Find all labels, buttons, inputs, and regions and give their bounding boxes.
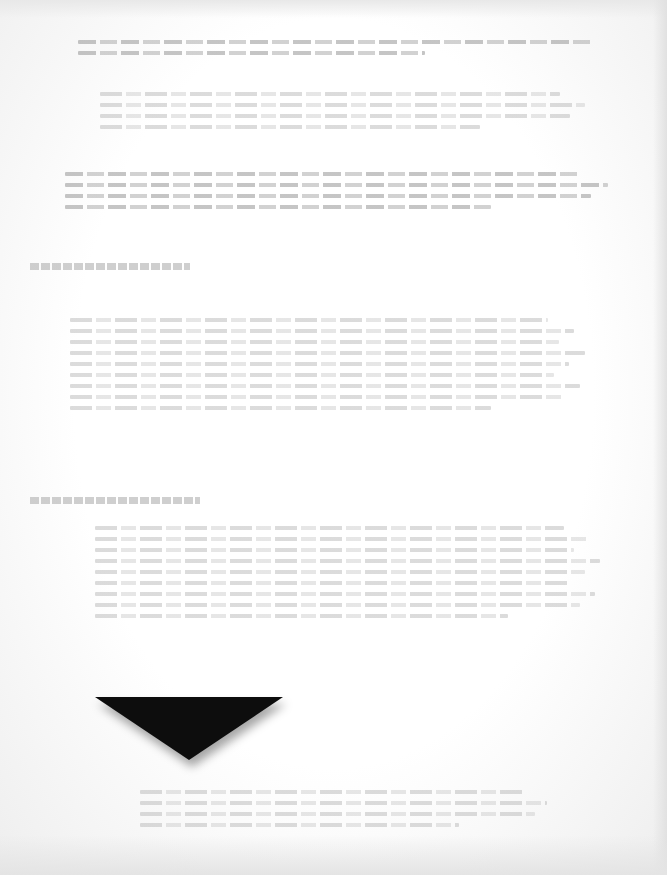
text-line	[95, 548, 574, 552]
page-edge-top	[0, 0, 667, 18]
paragraph-para-top-1	[78, 40, 638, 62]
text-line	[95, 614, 508, 618]
text-line	[95, 570, 585, 574]
text-line	[65, 205, 491, 209]
scanned-page: Text on this scanned page is too faded t…	[0, 0, 667, 875]
text-line	[140, 790, 526, 794]
text-line	[100, 114, 570, 118]
text-line	[70, 351, 585, 355]
text-line	[95, 537, 590, 541]
down-triangle-graphic	[95, 697, 285, 762]
text-line	[70, 362, 569, 366]
text-line	[70, 406, 491, 410]
text-line	[70, 395, 564, 399]
text-line	[70, 329, 574, 333]
text-line	[78, 40, 593, 44]
text-line	[78, 51, 425, 55]
paragraph-para-top-3	[65, 172, 625, 216]
section-heading-1	[30, 263, 190, 270]
paragraph-para-mid	[70, 318, 590, 417]
text-line	[140, 812, 535, 816]
text-line	[70, 318, 548, 322]
text-line	[140, 823, 459, 827]
text-line	[70, 373, 554, 377]
section-heading-2	[30, 497, 200, 504]
paragraph-para-lower	[95, 526, 605, 625]
text-line	[100, 103, 585, 107]
text-line	[95, 526, 564, 530]
text-line	[65, 172, 580, 176]
text-line	[100, 125, 480, 129]
text-line	[95, 603, 580, 607]
text-line	[65, 183, 608, 187]
paragraph-para-bottom	[140, 790, 560, 834]
text-line	[140, 801, 547, 805]
text-line	[95, 592, 595, 596]
text-line	[95, 559, 600, 563]
page-edge-right	[653, 0, 667, 875]
triangle-arrow-icon	[95, 697, 283, 760]
text-line	[95, 581, 569, 585]
text-line	[70, 340, 559, 344]
text-line	[100, 92, 560, 96]
paragraph-para-top-2	[100, 92, 600, 136]
page-edge-bottom	[0, 835, 667, 875]
text-line	[65, 194, 591, 198]
text-line	[70, 384, 580, 388]
